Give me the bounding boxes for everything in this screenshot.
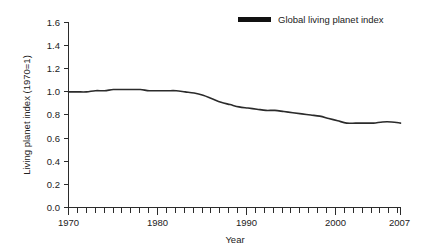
y-axis-title: Living planet index (1970=1) — [21, 55, 32, 175]
y-tick-label: 0.4 — [47, 156, 60, 167]
y-tick-label: 1.2 — [47, 63, 60, 74]
series-line-global-living-planet-index — [69, 89, 401, 123]
legend-label: Global living planet index — [278, 14, 384, 25]
x-axis-tick-labels: 1970 1980 1990 2000 2007 — [58, 217, 410, 228]
y-tick-label: 1.6 — [47, 17, 60, 28]
legend-swatch — [238, 17, 271, 22]
x-axis-title: Year — [225, 234, 244, 245]
chart-canvas: 0.0 0.2 0.4 0.6 0.8 1.0 1.2 1.4 1.6 — [0, 0, 422, 252]
x-axis-ticks — [69, 208, 401, 215]
legend: Global living planet index — [238, 14, 384, 25]
y-axis-tick-labels: 0.0 0.2 0.4 0.6 0.8 1.0 1.2 1.4 1.6 — [47, 17, 60, 213]
y-tick-label: 0.8 — [47, 109, 60, 120]
x-tick-label: 2000 — [325, 217, 346, 228]
x-tick-label: 1980 — [147, 217, 168, 228]
x-tick-label: 1990 — [236, 217, 257, 228]
y-axis-ticks — [64, 23, 69, 208]
y-tick-label: 1.4 — [47, 40, 60, 51]
y-tick-label: 0.0 — [47, 202, 60, 213]
x-tick-label: 1970 — [58, 217, 79, 228]
y-tick-label: 0.2 — [47, 179, 60, 190]
living-planet-index-chart: 0.0 0.2 0.4 0.6 0.8 1.0 1.2 1.4 1.6 — [0, 0, 422, 252]
y-tick-label: 1.0 — [47, 86, 60, 97]
x-tick-label: 2007 — [389, 217, 410, 228]
y-tick-label: 0.6 — [47, 133, 60, 144]
